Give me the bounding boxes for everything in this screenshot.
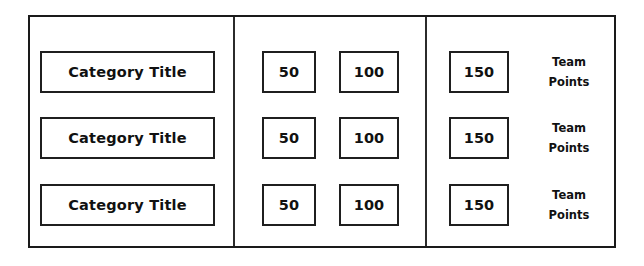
points-box-100[interactable]: 100 bbox=[339, 117, 399, 159]
points-box-50[interactable]: 50 bbox=[262, 117, 316, 159]
scoreboard-frame: Category Title 50 100 150 Team Points Ca… bbox=[28, 15, 616, 248]
category-title-box[interactable]: Category Title bbox=[40, 184, 215, 226]
category-title-box[interactable]: Category Title bbox=[40, 117, 215, 159]
scoreboard-row: Category Title 50 100 150 Team Points bbox=[30, 117, 614, 159]
points-box-150[interactable]: 150 bbox=[449, 51, 509, 93]
team-points-line-2: Points bbox=[549, 72, 590, 92]
team-points-label: Team Points bbox=[526, 50, 612, 94]
team-points-line-2: Points bbox=[549, 205, 590, 225]
scoreboard-row: Category Title 50 100 150 Team Points bbox=[30, 51, 614, 93]
team-points-line-1: Team bbox=[552, 52, 586, 72]
points-box-50[interactable]: 50 bbox=[262, 51, 316, 93]
points-box-100[interactable]: 100 bbox=[339, 184, 399, 226]
team-points-line-1: Team bbox=[552, 118, 586, 138]
team-points-line-2: Points bbox=[549, 138, 590, 158]
team-points-label: Team Points bbox=[526, 183, 612, 227]
team-points-line-1: Team bbox=[552, 185, 586, 205]
category-title-box[interactable]: Category Title bbox=[40, 51, 215, 93]
team-points-label: Team Points bbox=[526, 116, 612, 160]
points-box-50[interactable]: 50 bbox=[262, 184, 316, 226]
points-box-100[interactable]: 100 bbox=[339, 51, 399, 93]
points-box-150[interactable]: 150 bbox=[449, 184, 509, 226]
points-box-150[interactable]: 150 bbox=[449, 117, 509, 159]
scoreboard-row: Category Title 50 100 150 Team Points bbox=[30, 184, 614, 226]
